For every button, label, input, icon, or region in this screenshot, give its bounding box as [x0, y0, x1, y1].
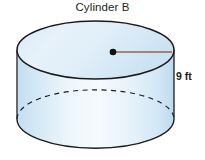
cylinder-figure: Cylinder B	[0, 0, 205, 160]
cylinder-drawing	[0, 0, 205, 160]
center-point-dot	[110, 49, 117, 56]
top-face-ellipse	[17, 21, 174, 79]
height-dimension-label: 9 ft	[176, 70, 192, 82]
